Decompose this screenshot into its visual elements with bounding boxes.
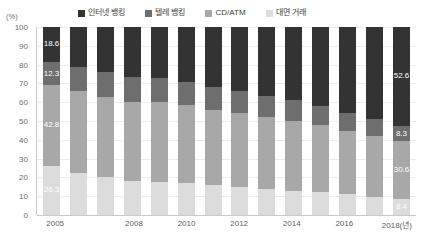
bar-segment[interactable] bbox=[231, 27, 248, 91]
bar-segment[interactable] bbox=[205, 27, 222, 87]
bar-segment[interactable]: 8.4 bbox=[393, 199, 410, 215]
x-axis-tick-labels: 2005200820102012201420162018(년) bbox=[36, 219, 416, 241]
bar-2017[interactable] bbox=[366, 27, 383, 215]
plot-area: 18.612.342.826.352.68.330.68.4 bbox=[36, 27, 416, 215]
bar-2010[interactable] bbox=[178, 27, 195, 215]
bar-segment[interactable] bbox=[312, 106, 329, 125]
bar-segment-value-label: 12.3 bbox=[44, 70, 60, 78]
y-axis-tick: 100 bbox=[15, 23, 28, 32]
bar-segment[interactable] bbox=[70, 27, 87, 67]
bar-segment[interactable] bbox=[97, 97, 114, 178]
y-axis-tick: 90 bbox=[19, 41, 28, 50]
bar-2013[interactable] bbox=[258, 27, 275, 215]
bar-segment[interactable] bbox=[70, 91, 87, 173]
bar-2006[interactable] bbox=[70, 27, 87, 215]
bar-segment[interactable] bbox=[285, 121, 302, 192]
bar-segment[interactable] bbox=[339, 27, 356, 113]
bar-2014[interactable] bbox=[285, 27, 302, 215]
bar-2005[interactable]: 18.612.342.826.3 bbox=[43, 27, 60, 215]
bar-2007[interactable] bbox=[97, 27, 114, 215]
bar-segment[interactable] bbox=[70, 67, 87, 91]
bar-2016[interactable] bbox=[339, 27, 356, 215]
x-axis-tick: 2012 bbox=[230, 219, 248, 228]
y-axis-unit-label: (%) bbox=[6, 12, 18, 21]
bar-segment[interactable] bbox=[312, 125, 329, 192]
bar-segment[interactable] bbox=[258, 27, 275, 96]
legend-item[interactable]: 텔레 뱅킹 bbox=[145, 9, 185, 17]
bar-segment[interactable] bbox=[151, 27, 168, 78]
bar-segment[interactable] bbox=[231, 113, 248, 187]
bar-segment[interactable] bbox=[124, 102, 141, 181]
bar-2011[interactable] bbox=[205, 27, 222, 215]
y-axis-tick: 60 bbox=[19, 98, 28, 107]
bar-segment[interactable] bbox=[178, 183, 195, 215]
legend-item-label: 텔레 뱅킹 bbox=[155, 9, 185, 17]
bar-segment[interactable] bbox=[231, 187, 248, 215]
bar-2009[interactable] bbox=[151, 27, 168, 215]
bar-segment[interactable] bbox=[312, 27, 329, 106]
bar-segment[interactable] bbox=[258, 189, 275, 215]
bar-segment[interactable] bbox=[70, 173, 87, 215]
bar-segment[interactable] bbox=[124, 27, 141, 77]
bar-segment[interactable] bbox=[205, 185, 222, 215]
bar-segment[interactable] bbox=[366, 136, 383, 197]
y-axis-tick: 0 bbox=[24, 211, 28, 220]
bar-2012[interactable] bbox=[231, 27, 248, 215]
bar-segment[interactable] bbox=[205, 110, 222, 185]
bar-segment[interactable] bbox=[312, 192, 329, 215]
bar-segment[interactable] bbox=[339, 131, 356, 195]
bar-segment[interactable] bbox=[151, 78, 168, 102]
x-axis-tick: 2005 bbox=[46, 219, 64, 228]
bar-segment[interactable] bbox=[339, 113, 356, 131]
bar-segment[interactable]: 12.3 bbox=[43, 62, 60, 85]
bar-segment[interactable] bbox=[97, 27, 114, 72]
bar-segment[interactable] bbox=[97, 72, 114, 96]
legend-item[interactable]: 대면 거래 bbox=[266, 9, 306, 17]
bar-segment[interactable] bbox=[178, 105, 195, 183]
bar-segment[interactable] bbox=[258, 117, 275, 189]
bar-2015[interactable] bbox=[312, 27, 329, 215]
bar-segment[interactable] bbox=[205, 87, 222, 110]
bar-segment[interactable] bbox=[285, 27, 302, 100]
bar-segment[interactable] bbox=[124, 77, 141, 102]
bar-segment[interactable]: 18.6 bbox=[43, 27, 60, 62]
bar-2018[interactable]: 52.68.330.68.4 bbox=[393, 27, 410, 215]
bar-segment-value-label: 42.8 bbox=[44, 121, 60, 129]
bar-segment[interactable]: 26.3 bbox=[43, 166, 60, 215]
bar-segment[interactable] bbox=[366, 119, 383, 136]
bar-segment-value-label: 30.6 bbox=[394, 166, 410, 174]
bar-segment-value-label: 52.6 bbox=[394, 72, 410, 80]
x-axis-tick: 2014 bbox=[283, 219, 301, 228]
y-axis-tick: 80 bbox=[19, 60, 28, 69]
y-axis-tick: 10 bbox=[19, 192, 28, 201]
bar-segment[interactable] bbox=[285, 191, 302, 215]
bar-segment[interactable]: 8.3 bbox=[393, 126, 410, 142]
bar-segment-value-label: 8.3 bbox=[396, 130, 407, 138]
bar-segment[interactable] bbox=[178, 27, 195, 82]
x-axis-tick: 2018(년) bbox=[382, 219, 412, 230]
bar-segment[interactable] bbox=[339, 194, 356, 214]
bar-segment-value-label: 18.6 bbox=[44, 40, 60, 48]
bar-segment[interactable]: 52.6 bbox=[393, 27, 410, 126]
bar-group: 18.612.342.826.352.68.330.68.4 bbox=[37, 27, 416, 215]
bar-segment[interactable] bbox=[97, 177, 114, 215]
x-axis-tick: 2010 bbox=[178, 219, 196, 228]
bar-2008[interactable] bbox=[124, 27, 141, 215]
bar-segment[interactable] bbox=[258, 96, 275, 117]
bar-segment[interactable] bbox=[366, 27, 383, 119]
bar-segment[interactable] bbox=[124, 181, 141, 215]
x-axis-tick: 2016 bbox=[335, 219, 353, 228]
bar-segment[interactable] bbox=[151, 182, 168, 215]
legend-item[interactable]: 인터넷 뱅킹 bbox=[78, 9, 125, 17]
bar-segment-value-label: 26.3 bbox=[44, 186, 60, 194]
bar-segment[interactable]: 30.6 bbox=[393, 141, 410, 199]
legend-item-label: CD/ATM bbox=[215, 9, 245, 17]
bar-segment[interactable] bbox=[231, 91, 248, 113]
bar-segment[interactable] bbox=[285, 100, 302, 120]
legend-swatch-icon bbox=[145, 10, 152, 17]
bar-segment[interactable] bbox=[151, 102, 168, 182]
legend-item[interactable]: CD/ATM bbox=[205, 9, 245, 17]
bar-segment[interactable] bbox=[366, 197, 383, 215]
bar-segment[interactable]: 42.8 bbox=[43, 85, 60, 165]
bar-segment[interactable] bbox=[178, 82, 195, 105]
